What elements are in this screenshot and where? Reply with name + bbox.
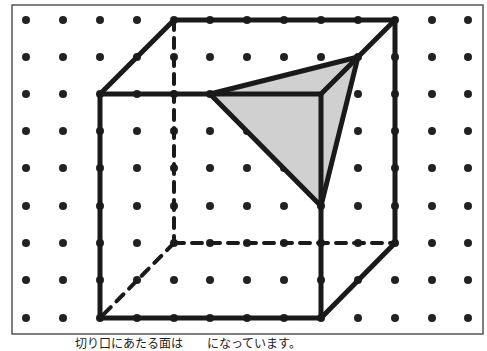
grid-dot <box>206 202 214 210</box>
grid-dot <box>464 164 472 172</box>
grid-dot <box>59 164 67 172</box>
grid-dot <box>22 127 30 135</box>
grid-dot <box>280 276 288 284</box>
grid-dot <box>428 239 436 247</box>
grid-dot <box>391 276 399 284</box>
grid-dot <box>391 314 399 322</box>
grid-dot <box>428 16 436 24</box>
cube-edge <box>100 20 174 94</box>
grid-dot <box>243 276 251 284</box>
cube-edge <box>321 243 395 318</box>
grid-dot <box>428 53 436 61</box>
grid-dot <box>428 314 436 322</box>
grid-dot <box>280 53 288 61</box>
grid-dot <box>280 202 288 210</box>
grid-dot <box>22 314 30 322</box>
grid-dot <box>133 202 141 210</box>
grid-dot <box>59 314 67 322</box>
grid-dot <box>22 239 30 247</box>
grid-dot <box>59 90 67 98</box>
grid-dot <box>133 127 141 135</box>
grid-dot <box>206 53 214 61</box>
grid-dot <box>206 127 214 135</box>
grid-dot <box>59 276 67 284</box>
grid-dot <box>59 239 67 247</box>
grid-dot <box>428 202 436 210</box>
grid-dot <box>354 202 362 210</box>
dot-grid <box>22 16 472 322</box>
grid-dot <box>22 164 30 172</box>
grid-dot <box>133 16 141 24</box>
grid-dot <box>206 164 214 172</box>
grid-dot <box>59 127 67 135</box>
grid-dot <box>464 127 472 135</box>
grid-dot <box>59 202 67 210</box>
grid-dot <box>464 239 472 247</box>
grid-dot <box>428 164 436 172</box>
grid-dot <box>170 276 178 284</box>
grid-dot <box>22 202 30 210</box>
grid-dot <box>243 164 251 172</box>
caption: 切り口にあたる面は になっています。 <box>75 337 301 351</box>
grid-dot <box>464 276 472 284</box>
grid-dot <box>59 53 67 61</box>
grid-dot <box>354 164 362 172</box>
grid-dot <box>428 276 436 284</box>
grid-dot <box>59 16 67 24</box>
grid-dot <box>464 90 472 98</box>
grid-dot <box>22 276 30 284</box>
grid-dot <box>464 314 472 322</box>
grid-dot <box>354 90 362 98</box>
grid-dot <box>428 127 436 135</box>
grid-dot <box>464 202 472 210</box>
hidden-edge <box>100 243 174 318</box>
grid-dot <box>22 16 30 24</box>
grid-dot <box>133 239 141 247</box>
grid-dot <box>133 164 141 172</box>
grid-dot <box>22 53 30 61</box>
grid-dot <box>96 53 104 61</box>
grid-dot <box>428 90 436 98</box>
cube-edge <box>321 20 395 94</box>
grid-dot <box>243 202 251 210</box>
grid-dot <box>243 53 251 61</box>
grid-dot <box>464 16 472 24</box>
grid-dot <box>354 127 362 135</box>
grid-dot <box>464 53 472 61</box>
grid-dot <box>22 90 30 98</box>
grid-dot <box>206 276 214 284</box>
grid-dot <box>354 314 362 322</box>
grid-dot <box>317 53 325 61</box>
grid-dot <box>96 16 104 24</box>
